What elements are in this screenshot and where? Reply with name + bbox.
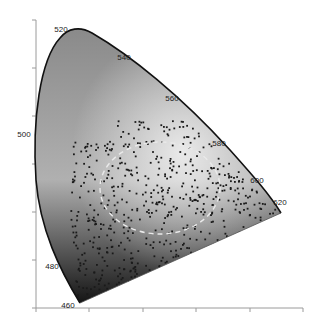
wavelength-label-560: 560 xyxy=(165,94,179,103)
wavelength-label-500: 500 xyxy=(17,130,31,139)
chart-svg: 460480500520540560580600620 xyxy=(0,0,313,332)
wavelength-label-520: 520 xyxy=(54,25,68,34)
wavelength-label-540: 540 xyxy=(117,53,131,62)
wavelength-label-600: 600 xyxy=(250,176,264,185)
wavelength-label-460: 460 xyxy=(61,301,75,310)
wavelength-label-620: 620 xyxy=(273,198,287,207)
x-ticks xyxy=(36,308,303,312)
chromaticity-diagram: 460480500520540560580600620 xyxy=(0,0,313,332)
wavelength-label-480: 480 xyxy=(45,262,59,271)
wavelength-label-580: 580 xyxy=(212,139,226,148)
